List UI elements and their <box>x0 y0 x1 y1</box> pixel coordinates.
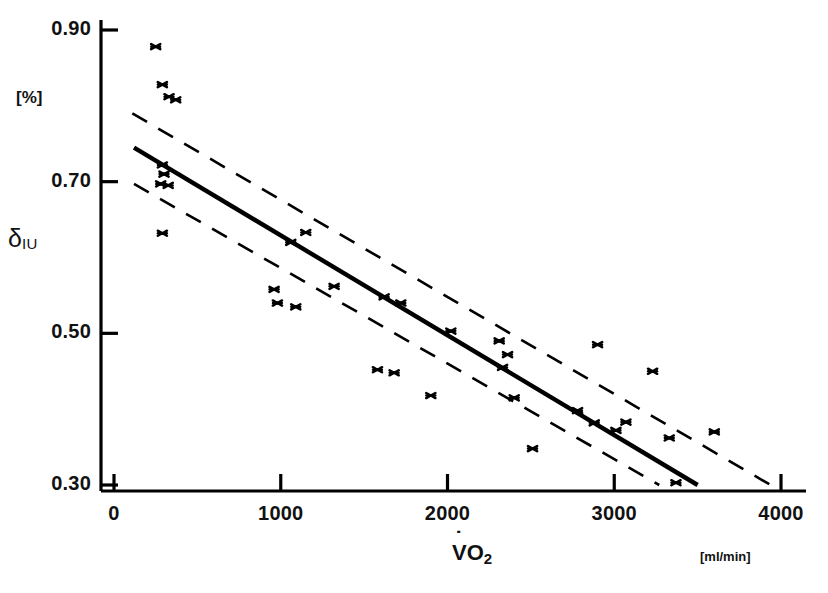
y-axis-tick-label: 0.90 <box>0 17 91 40</box>
data-point-marker <box>648 369 657 374</box>
data-point-marker <box>273 300 282 305</box>
confidence-band-lower <box>134 184 659 485</box>
x-axis-tick-label: 4000 <box>721 502 828 525</box>
x-axis-tick-label: 2000 <box>388 502 508 525</box>
data-point-marker <box>373 367 382 372</box>
y-axis-title-subscript: IU <box>22 235 38 252</box>
data-point-marker <box>710 429 719 434</box>
y-axis-title: δIU <box>8 224 38 253</box>
data-point-marker <box>611 428 620 433</box>
data-point-marker <box>171 97 180 102</box>
regression-line-group <box>134 148 698 485</box>
scatter-plot-figure: [%] δIU VO2 [ml/min] 0.300.500.700.90010… <box>0 0 828 593</box>
data-point-marker <box>330 284 339 289</box>
data-point-marker <box>151 44 160 49</box>
data-points-group <box>151 44 719 485</box>
data-point-marker <box>159 172 168 177</box>
x-axis-tick-label: 1000 <box>221 502 341 525</box>
data-point-marker <box>671 480 680 485</box>
x-axis-tick-label: 3000 <box>554 502 674 525</box>
x-axis-title-subscript: 2 <box>484 550 492 567</box>
data-point-marker <box>621 420 630 425</box>
data-point-marker <box>269 287 278 292</box>
y-axis-unit-label: [%] <box>16 88 42 108</box>
x-axis-title: VO2 <box>452 540 492 567</box>
data-point-marker <box>665 435 674 440</box>
data-point-marker <box>158 82 167 87</box>
data-point-marker <box>495 338 504 343</box>
confidence-band-upper <box>132 113 781 491</box>
y-axis-tick-label: 0.30 <box>0 472 91 495</box>
y-axis-tick-label: 0.70 <box>0 169 91 192</box>
y-axis-tick-label: 0.50 <box>0 320 91 343</box>
data-point-marker <box>390 370 399 375</box>
x-axis-title-symbol: VO <box>452 540 484 565</box>
y-axis-title-symbol: δ <box>8 224 22 252</box>
regression-line <box>134 148 698 485</box>
data-point-marker <box>446 329 455 334</box>
data-point-marker <box>503 352 512 357</box>
x-axis-tick-label: 0 <box>54 502 174 525</box>
axes-group <box>101 20 806 491</box>
data-point-marker <box>510 395 519 400</box>
data-point-marker <box>301 230 310 235</box>
data-point-marker <box>426 393 435 398</box>
data-point-marker <box>158 231 167 236</box>
confidence-bands-group <box>132 113 781 491</box>
x-axis-unit-label: [ml/min] <box>700 549 751 564</box>
data-point-marker <box>164 183 173 188</box>
data-point-marker <box>593 342 602 347</box>
data-point-marker <box>291 304 300 309</box>
data-point-marker <box>528 446 537 451</box>
